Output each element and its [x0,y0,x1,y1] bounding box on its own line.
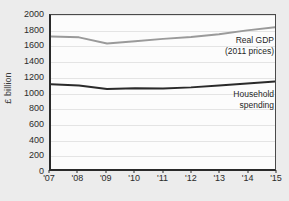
y-axis-tick-label: 600 [29,119,44,128]
series-label-real-gdp: Real GDP (2011 prices) [225,35,274,56]
chart-figure: £ billion 200018001600140012001000800600… [0,0,289,201]
series-label-household-spending: Household spending [233,89,274,110]
y-axis-tick-label: 1200 [24,72,44,81]
x-axis-tick-label: '15 [270,174,282,183]
x-axis-tick-labels: '07'08'09'10'11'12'13'14'15 [49,173,276,189]
x-axis-tick-label: '09 [100,174,112,183]
series-label-real-gdp-line2: (2011 prices) [225,46,274,57]
x-axis-tick-label: '10 [128,174,140,183]
y-axis-title: £ billion [0,0,16,175]
series-line [51,82,275,89]
series-label-household-spending-line1: Household [233,89,274,100]
y-axis-tick-label: 1400 [24,57,44,66]
x-axis-tick-label: '14 [242,174,254,183]
series-label-household-spending-line2: spending [233,100,274,111]
x-axis-tick-label: '13 [213,174,225,183]
x-axis-tick-label: '08 [72,174,84,183]
y-axis-tick-label: 2000 [24,10,44,19]
y-axis-title-text: £ billion [3,72,13,103]
y-axis-tick-label: 400 [29,135,44,144]
x-axis-tick-label: '07 [43,174,55,183]
x-axis-tick-label: '12 [185,174,197,183]
x-axis-tick-label: '11 [157,174,168,183]
y-axis-tick-label: 800 [29,104,44,113]
y-axis-tick-label: 1000 [24,88,44,97]
y-axis-tick-labels: 2000180016001400120010008006004002000 [16,14,47,171]
y-axis-tick-label: 1800 [24,25,44,34]
series-label-real-gdp-line1: Real GDP [225,35,274,46]
y-axis-tick-label: 1600 [24,41,44,50]
y-axis-tick-label: 200 [29,151,44,160]
